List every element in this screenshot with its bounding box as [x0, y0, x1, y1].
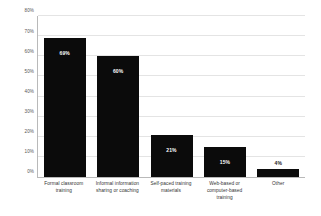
y-axis-tick-label: 0% — [27, 170, 34, 175]
y-axis-tick-label: 40% — [25, 90, 35, 95]
bar-value-label: 69% — [44, 51, 86, 56]
x-axis-category-label: Formal classroom training — [37, 181, 91, 202]
bar-slot: 60% — [91, 16, 144, 177]
bar[interactable]: 69% — [44, 38, 86, 177]
x-axis-category-labels: Formal classroom trainingInformal inform… — [37, 181, 305, 202]
x-axis-category-label: Self-paced training materials — [144, 181, 198, 202]
y-axis-tick-label: 60% — [25, 49, 35, 54]
y-axis-tick-label: 80% — [25, 9, 35, 14]
bar-slot: 69% — [38, 16, 91, 177]
x-axis-category-label: Informal information sharing or coaching — [91, 181, 145, 202]
bar-value-label: 21% — [151, 148, 193, 153]
bar-slot: 21% — [145, 16, 198, 177]
bar-value-label: 60% — [97, 69, 139, 74]
y-axis-tick-label: 70% — [25, 29, 35, 34]
bar-slot: 4% — [252, 16, 305, 177]
bars-layer: 69%60%21%15%4% — [38, 16, 305, 177]
y-axis-tick-label: 50% — [25, 69, 35, 74]
bar[interactable]: 15% — [204, 147, 246, 177]
x-axis-category-label: Web-based or computer-based training — [198, 181, 252, 202]
y-axis-tick-label: 30% — [25, 110, 35, 115]
bar[interactable]: 60% — [97, 56, 139, 177]
y-axis-tick-label: 10% — [25, 150, 35, 155]
plot-area: 0%10%20%30%40%50%60%70%80% 69%60%21%15%4… — [37, 16, 305, 178]
x-axis-category-label: Other — [251, 181, 305, 202]
bar-slot: 15% — [198, 16, 251, 177]
bar-value-label: 15% — [204, 160, 246, 165]
bar[interactable]: 4% — [257, 169, 299, 177]
bar-chart: 0%10%20%30%40%50%60%70%80% 69%60%21%15%4… — [0, 0, 321, 216]
bar-value-label: 4% — [257, 161, 299, 166]
bar[interactable]: 21% — [151, 135, 193, 177]
y-axis-tick-label: 20% — [25, 130, 35, 135]
